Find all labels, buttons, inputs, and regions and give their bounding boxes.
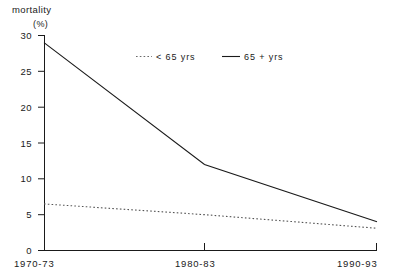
y-axis-ticks bbox=[38, 36, 44, 251]
series-line-65-plus bbox=[44, 43, 377, 222]
x-axis-ticks bbox=[205, 243, 377, 250]
plot-area bbox=[0, 0, 393, 278]
mortality-line-chart: mortality (%) 30 25 20 15 10 5 0 1970-73… bbox=[0, 0, 393, 278]
series-line-under-65 bbox=[44, 204, 377, 228]
